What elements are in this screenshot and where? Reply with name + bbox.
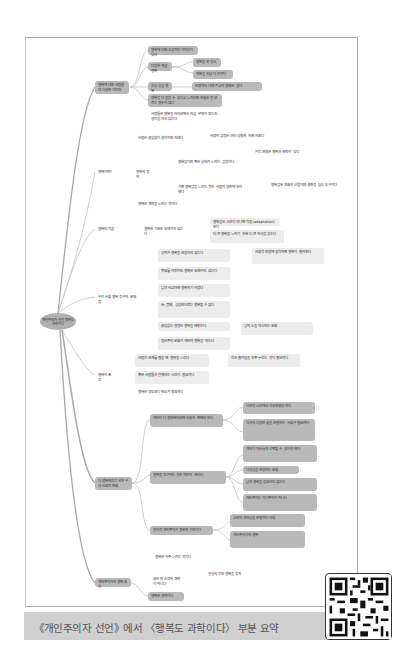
node-4-1: 성취가 행복을 보장하지 않는다 xyxy=(158,249,230,262)
node-text: 사람들은 행복을 바라보면서 지금 무엇이 맞는지 생각을 하지 않는다 xyxy=(151,112,217,121)
node-1-1[interactable]: 행복에 대해 추상적인 이미지가 있다 xyxy=(148,46,198,55)
node-6-3[interactable]: 합리적 개인주의가 행복의 기반이다 xyxy=(150,526,213,535)
node-text: 더 큰 행복을 느끼기 위해 더 큰 자극을 찾는다 xyxy=(213,232,276,236)
branch-1-label: 행복에 대한 사람들의 다양한 이미지 xyxy=(98,83,124,92)
node-text: 끊임없는 경쟁은 행복을 빼앗는다 xyxy=(161,324,206,328)
root-label: 개인주의자 선언 행복도 과학이다 xyxy=(40,318,76,326)
node-text: 사회적 인정에 집착하면 행복이 멀어진다 xyxy=(255,250,311,254)
node-text: 타인의 시선에서 자유로워야 한다 xyxy=(246,404,291,408)
node-6-3-2[interactable]: 개인주의자의 행복 xyxy=(230,531,305,548)
node-4-6: 집단주의 문화가 개인의 행복을 막는다 xyxy=(158,337,230,350)
node-text: 행복은 과학이다 xyxy=(151,594,173,598)
root-node[interactable]: 개인주의자 선언 행복도 과학이다 xyxy=(40,313,76,330)
node-text: 행복을 꼭 일시 xyxy=(196,60,216,64)
node-5-1: 사람과 관계를 맺을 때 행복을 느낀다 xyxy=(135,354,209,367)
branch-node-1[interactable]: 행복에 대한 사람들의 다양한 이미지 xyxy=(95,81,129,94)
node-1-5: 사람들은 행복을 바라보면서 지금 무엇이 맞는지 생각을 하지 않는다 xyxy=(148,110,220,124)
node-text: 기쁜 행복감을 느끼는 것은 사람의 생존에 유리했다 xyxy=(178,185,242,194)
node-text: 다양성을 인정하는 문화 xyxy=(246,468,278,472)
node-6-3-1[interactable]: 서로의 개인성을 존중하는 사회 xyxy=(230,514,305,527)
node-6-2-1[interactable]: 개인이 자유롭게 선택할 수 있어야 한다 xyxy=(243,445,317,462)
node-text: 행복을 더 얻을 수 있다고 느끼지만 현실은 잘 모르는 경우가 많다 xyxy=(151,96,217,105)
node-text: 돈, 명예, 성공만으로는 행복할 수 없다 xyxy=(161,303,214,307)
node-text: 개인주의자의 행복 xyxy=(233,533,258,537)
node-1-3-1[interactable]: 인류역사 이래 최고의 행복은 없다 xyxy=(192,82,262,91)
node-3-2: 행복감은 시간이 지나면 적응(adaptation)된다 xyxy=(210,218,280,226)
node-text: 외적 환경은 행복과 관련이 있다 xyxy=(255,150,299,154)
node-text: 행복을 지금 더 가꾸다 xyxy=(196,72,226,76)
node-2-3: 사람의 감정은 여러 상황에 의해 바뀐다 xyxy=(207,132,279,144)
branch-node-7[interactable]: 개인주의자의 행복 요약 xyxy=(95,578,131,587)
node-2-7: 행복감은 진화의 산물이며 생존을 돕는 도구이다 xyxy=(268,181,342,197)
branch-node-3[interactable]: 행복의 적응 xyxy=(95,225,119,233)
qr-code[interactable] xyxy=(325,573,392,640)
node-text: 행복감은 진화의 산물이며 생존을 돕는 도구이다 xyxy=(271,183,337,187)
node-1-2-2[interactable]: 행복을 지금 더 가꾸다 xyxy=(193,70,233,79)
node-text: 목표를 이루어도 행복은 오래가지 않는다 xyxy=(161,269,217,273)
node-6-1[interactable]: 개인이 더 행복해지려면 사회가 변해야 한다 xyxy=(150,414,223,427)
node-4-7: 사회적 인정에 집착하면 행복이 멀어진다 xyxy=(252,248,324,264)
node-text: 남의 눈을 의식하는 문화 xyxy=(244,324,277,328)
node-text: 개인이 자유롭게 선택할 수 있어야 한다 xyxy=(246,447,300,451)
node-text: 행복감이란 좋은 상태가 느끼는 감정이다 xyxy=(178,160,234,164)
node-4-2: 목표를 이루어도 행복은 오래가지 않는다 xyxy=(158,267,230,280)
node-text: 행복은 자주 느끼는 것이다 xyxy=(155,555,191,559)
node-1-2[interactable]: 다양한 개념 행복 xyxy=(148,62,172,71)
node-text: 작은 즐거움을 자주 누리는 것이 중요하다 xyxy=(231,356,288,360)
node-7-2: 삶은 한 순간의 쾌락이 아니다 xyxy=(150,575,186,583)
node-5-3: 행복은 강도보다 빈도가 중요하다 xyxy=(135,388,209,400)
node-2-1[interactable]: 행복의 정의 xyxy=(133,168,155,176)
qr-code-icon xyxy=(327,575,391,639)
node-1-4[interactable]: 행복을 더 얻을 수 있다고 느끼지만 현실은 잘 모르는 경우가 많다 xyxy=(148,94,222,107)
node-text: 행복은 강도보다 빈도가 중요하다 xyxy=(138,390,183,394)
node-7-1: 행복은 자주 느끼는 것이다 xyxy=(152,553,224,565)
node-3-3: 더 큰 행복을 느끼기 위해 더 큰 자극을 찾는다 xyxy=(210,230,284,243)
node-4-5: 끊임없는 경쟁은 행복을 빼앗는다 xyxy=(158,322,230,331)
node-6-2-4[interactable]: 개인주의는 이기주의가 아니다 xyxy=(243,494,317,511)
node-text: 각자의 다양한 삶을 존중하는 사회가 필요하다 xyxy=(246,421,309,425)
branch-node-4[interactable]: 우리 사회 행복 추구의 문제점 xyxy=(95,293,139,301)
node-text: 행복은 쾌락을 느끼는 것이다 xyxy=(138,202,177,206)
node-4-3: 남과 비교하면 행복하기 어렵다 xyxy=(158,284,230,297)
node-2-4: 행복감이란 좋은 상태가 느끼는 감정이다 xyxy=(175,158,241,166)
node-text: 남과 비교하면 행복하기 어렵다 xyxy=(161,286,203,290)
branch-3-label: 행복의 적응 xyxy=(98,227,114,231)
node-1-2-1[interactable]: 행복을 꼭 일시 xyxy=(193,58,221,67)
node-text: 서로의 개인성을 존중하는 사회 xyxy=(233,516,275,520)
branch-6-label: 더 행복해지기 위한 우리 사회의 변화 xyxy=(98,479,128,488)
node-6-1-2[interactable]: 각자의 다양한 삶을 존중하는 사회가 필요하다 xyxy=(243,419,315,441)
node-6-1-1[interactable]: 타인의 시선에서 자유로워야 한다 xyxy=(243,402,315,414)
node-2-8: 행복은 쾌락을 느끼는 것이다 xyxy=(135,200,207,212)
caption-bar: 《개인주의자 선언》에서 〈행복도 과학이다〉 부분 요약 xyxy=(24,612,354,640)
caption-text: 《개인주의자 선언》에서 〈행복도 과학이다〉 부분 요약 xyxy=(34,620,279,635)
node-5-2: 좋은 사람들과 함께하는 시간이 중요하다 xyxy=(135,371,209,384)
branch-node-6[interactable]: 더 행복해지기 위한 우리 사회의 변화 xyxy=(95,477,132,490)
branch-node-5[interactable]: 행복의 조건 xyxy=(95,371,117,379)
node-6-2[interactable]: 행복을 추구하는 것은 개인의 권리다 xyxy=(150,471,226,484)
node-2-5: 외적 환경은 행복과 관련이 있다 xyxy=(252,148,324,160)
node-text: 좋은 사람들과 함께하는 시간이 중요하다 xyxy=(138,373,194,377)
node-text: 사람은 끊임없이 생각하며 지낸다 xyxy=(138,136,183,140)
node-text: 합리적 개인주의가 행복의 기반이다 xyxy=(153,528,201,532)
branch-2-label: 행복이란? xyxy=(98,170,112,174)
node-text: 개인주의는 이기주의가 아니다 xyxy=(246,496,287,500)
node-4-4: 돈, 명예, 성공만으로는 행복할 수 없다 xyxy=(158,301,230,318)
node-text: 남의 행복을 강요하지 않는다 xyxy=(246,480,285,484)
node-2-2: 사람은 끊임없이 생각하며 지낸다 xyxy=(135,134,195,142)
node-text: 일상의 작은 행복을 찾자 xyxy=(208,572,241,576)
node-4-8: 남의 눈을 의식하는 문화 xyxy=(241,322,313,335)
node-6-2-2[interactable]: 다양성을 인정하는 문화 xyxy=(243,466,299,474)
node-text: 사람과 관계를 맺을 때 행복을 느낀다 xyxy=(138,356,189,360)
node-text: 개인이 더 행복해지려면 사회가 변해야 한다 xyxy=(153,416,213,420)
branch-node-2[interactable]: 행복이란? xyxy=(95,168,119,176)
node-7-3: 일상의 작은 행복을 찾자 xyxy=(205,570,275,578)
node-6-2-3[interactable]: 남의 행복을 강요하지 않는다 xyxy=(243,478,317,491)
node-text: 사람의 감정은 여러 상황에 의해 바뀐다 xyxy=(210,134,264,138)
node-5-4: 작은 즐거움을 자주 누리는 것이 중요하다 xyxy=(228,354,300,367)
node-7-4[interactable]: 행복은 과학이다 xyxy=(148,592,184,601)
node-text: 집단주의 문화가 개인의 행복을 막는다 xyxy=(161,339,214,343)
node-2-6: 기쁜 행복감을 느끼는 것은 사람의 생존에 유리했다 xyxy=(175,183,247,195)
node-1-3[interactable]: 추상 공감 행복 xyxy=(148,82,172,91)
node-3-1: 행복한 기분은 오래가지 않는다 xyxy=(141,225,189,233)
node-text: 성취가 행복을 보장하지 않는다 xyxy=(161,251,203,255)
